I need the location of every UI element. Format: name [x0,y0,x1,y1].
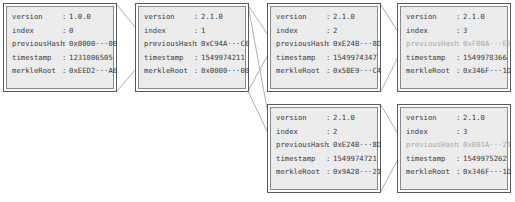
field-label: merkleRoot [276,165,326,179]
field-value: 0xF00A···E7 [463,37,511,51]
field-separator: : [326,165,333,179]
field-value: 3 [463,24,507,38]
block-card-body: version : 2.1.0 index : 3 previousHash :… [400,107,508,190]
field-separator: : [62,51,69,65]
block-card-0[interactable]: version : 1.0.0 index : 0 previousHash :… [3,3,117,92]
field-value: 1549978366 [463,51,507,65]
field-timestamp: timestamp : 1549974347 [276,51,377,65]
field-label: version [12,10,62,24]
field-value: 0x9A28···21 [333,165,381,179]
field-label: merkleRoot [406,64,456,78]
field-version: version : 2.1.0 [406,10,507,24]
field-separator: : [326,152,333,166]
field-label: index [406,24,456,38]
field-label: index [276,125,326,139]
field-previous-hash: previousHash : 0x0000···00 [12,37,113,51]
field-value: 0x0000···00 [69,37,117,51]
field-value: 2.1.0 [333,10,377,24]
field-value: 1 [201,24,245,38]
field-value: 2.1.0 [463,10,507,24]
field-previous-hash: previousHash : 0xE24B···8D [276,138,377,152]
field-value: 0xE24B···8D [333,37,381,51]
field-separator: : [456,152,463,166]
field-separator: : [62,10,69,24]
block-card-body: version : 2.1.0 index : 2 previousHash :… [270,6,378,89]
field-separator: : [326,10,333,24]
field-value: 2 [333,24,377,38]
field-separator: : [62,24,69,38]
block-card-3b[interactable]: version : 2.1.0 index : 3 previousHash :… [397,104,511,193]
field-label: merkleRoot [144,64,194,78]
block-card-1[interactable]: version : 2.1.0 index : 1 previousHash :… [135,3,249,92]
field-value: 0x0000···00 [201,64,249,78]
field-separator: : [326,64,333,78]
field-separator: : [456,24,463,38]
field-index: index : 2 [276,24,377,38]
field-label: timestamp [276,152,326,166]
field-merkle-root: merkleRoot : 0x0000···00 [144,64,245,78]
field-separator: : [326,37,333,51]
field-previous-hash: previousHash : 0xF00A···E7 [406,37,507,51]
field-index: index : 3 [406,125,507,139]
field-index: index : 1 [144,24,245,38]
field-previous-hash: previousHash : 0x801A···21 [406,138,507,152]
field-value: 0x5BE9···C4 [333,64,381,78]
field-label: timestamp [12,51,62,65]
field-value: 2.1.0 [463,111,507,125]
field-separator: : [456,64,463,78]
field-merkle-root: merkleRoot : 0xEED2···A6 [12,64,113,78]
field-value: 0xC94A···C6 [201,37,249,51]
field-separator: : [456,138,463,152]
field-timestamp: timestamp : 1549975262 [406,152,507,166]
field-label: previousHash [276,138,326,152]
field-separator: : [456,37,463,51]
field-separator: : [456,51,463,65]
field-value: 0xEED2···A6 [69,64,117,78]
field-value: 0x346F···1D [463,64,511,78]
field-separator: : [326,125,333,139]
field-value: 0x801A···21 [463,138,511,152]
block-card-body: version : 1.0.0 index : 0 previousHash :… [6,6,114,89]
field-separator: : [456,111,463,125]
field-value: 2.1.0 [201,10,245,24]
field-label: previousHash [12,37,62,51]
field-version: version : 2.1.0 [276,111,377,125]
field-label: previousHash [144,37,194,51]
field-index: index : 0 [12,24,113,38]
field-timestamp: timestamp : 1549978366 [406,51,507,65]
field-version: version : 1.0.0 [12,10,113,24]
field-timestamp: timestamp : 1549974721 [276,152,377,166]
field-separator: : [456,125,463,139]
field-version: version : 2.1.0 [144,10,245,24]
field-separator: : [326,51,333,65]
block-card-2a[interactable]: version : 2.1.0 index : 2 previousHash :… [267,3,381,92]
block-card-3a[interactable]: version : 2.1.0 index : 3 previousHash :… [397,3,511,92]
field-separator: : [326,111,333,125]
block-card-2b[interactable]: version : 2.1.0 index : 2 previousHash :… [267,104,381,193]
field-separator: : [194,10,201,24]
field-value: 2 [333,125,377,139]
field-merkle-root: merkleRoot : 0x9A28···21 [276,165,377,179]
field-label: index [144,24,194,38]
field-label: version [406,10,456,24]
field-label: previousHash [406,37,456,51]
field-index: index : 3 [406,24,507,38]
field-value: 1549974211 [201,51,245,65]
field-merkle-root: merkleRoot : 0x346F···1D [406,165,507,179]
field-merkle-root: merkleRoot : 0x5BE9···C4 [276,64,377,78]
field-label: index [406,125,456,139]
field-value: 3 [463,125,507,139]
field-version: version : 2.1.0 [406,111,507,125]
field-value: 0 [69,24,113,38]
field-label: version [406,111,456,125]
field-label: index [276,24,326,38]
field-timestamp: timestamp : 1231006505 [12,51,113,65]
block-card-body: version : 2.1.0 index : 2 previousHash :… [270,107,378,190]
field-previous-hash: previousHash : 0xC94A···C6 [144,37,245,51]
field-value: 0xE24B···8D [333,138,381,152]
field-value: 1.0.0 [69,10,113,24]
field-merkle-root: merkleRoot : 0x346F···1D [406,64,507,78]
field-previous-hash: previousHash : 0xE24B···8D [276,37,377,51]
field-label: timestamp [406,152,456,166]
field-separator: : [456,10,463,24]
